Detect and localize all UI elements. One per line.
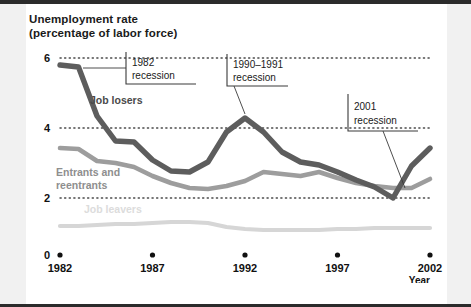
annotation-1982-recession: 1982 recession xyxy=(83,52,196,84)
plot-area: 6 4 2 0 Job losers Entrants and reentran… xyxy=(26,48,447,283)
x-tick-1992: 1992 xyxy=(233,262,257,274)
chart-title: Unemployment rate(percentage of labor fo… xyxy=(29,13,177,40)
x-axis-ticks: 1982 1987 1992 1997 2002 xyxy=(48,252,442,274)
series-label-job-leavers: Job leavers xyxy=(84,203,142,215)
series-label-entrants-reentrants: Entrants and reentrants xyxy=(56,166,123,191)
y-tick-2: 2 xyxy=(44,192,50,204)
x-tick-dot-1987 xyxy=(150,252,155,257)
chart-svg: 6 4 2 0 Job losers Entrants and reentran… xyxy=(26,48,447,283)
y-axis-labels: 6 4 2 0 xyxy=(44,52,51,261)
figure-container: Unemployment rate(percentage of labor fo… xyxy=(0,0,471,307)
y-tick-0: 0 xyxy=(44,249,50,261)
series-label-job-losers: Job losers xyxy=(90,94,143,106)
annotation-leader-2001 xyxy=(383,131,405,188)
annotation-2001-line2: recession xyxy=(354,115,397,126)
y-tick-6: 6 xyxy=(44,52,50,64)
x-axis-caption: Year xyxy=(409,275,430,283)
x-tick-2002: 2002 xyxy=(418,262,442,274)
right-page-margin xyxy=(447,4,471,304)
top-rule xyxy=(0,0,471,4)
x-tick-dot-1992 xyxy=(242,252,247,257)
x-tick-1997: 1997 xyxy=(325,262,349,274)
series-line-job-leavers xyxy=(60,222,430,230)
y-tick-4: 4 xyxy=(44,122,51,134)
annotation-1990-1991-recession: 1990–1991 recession xyxy=(227,54,288,114)
annotation-1982-line1: 1982 xyxy=(132,57,155,68)
annotation-1982-line2: recession xyxy=(132,70,175,81)
annotation-leader-1990 xyxy=(234,86,245,114)
annotation-1990-line2: recession xyxy=(233,72,276,83)
annotation-1990-line1: 1990–1991 xyxy=(233,59,283,70)
x-tick-1982: 1982 xyxy=(48,262,72,274)
x-tick-dot-2002 xyxy=(427,252,432,257)
left-page-margin xyxy=(0,4,26,304)
x-tick-1987: 1987 xyxy=(140,262,164,274)
annotation-2001-line1: 2001 xyxy=(354,101,377,112)
x-tick-dot-1982 xyxy=(57,252,62,257)
x-tick-dot-1997 xyxy=(335,252,340,257)
series-labels: Job losers Entrants and reentrants Job l… xyxy=(56,94,143,215)
